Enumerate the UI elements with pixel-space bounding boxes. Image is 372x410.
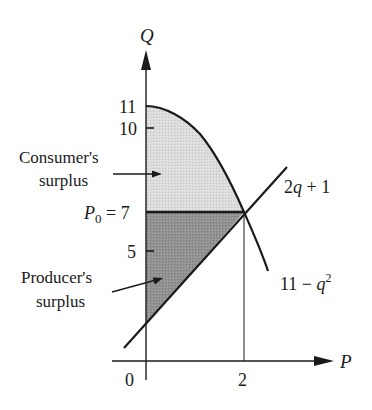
producer-surplus-label-line1: Producer's	[21, 268, 92, 287]
tick-label-5: 5	[127, 242, 136, 262]
supply-label-q: q	[293, 177, 302, 197]
tick-label-0: 0	[125, 370, 134, 390]
p-axis-label: P	[339, 351, 352, 372]
q-axis-arrowhead-icon	[141, 50, 151, 70]
supply-label-2: 2	[284, 177, 293, 197]
producer-surplus-label-line2: surplus	[36, 292, 85, 311]
equilibrium-value: = 7	[102, 203, 130, 223]
tick-label-2: 2	[238, 370, 247, 390]
tick-label-11: 11	[119, 97, 136, 117]
demand-label-q: q	[316, 274, 325, 294]
supply-curve-label: 2q + 1	[284, 177, 330, 197]
consumer-surplus-label-line2: surplus	[39, 171, 88, 190]
consumer-surplus-label-line1: Consumer's	[19, 148, 99, 167]
q-axis-label: Q	[140, 25, 154, 46]
equilibrium-symbol: P	[83, 203, 95, 223]
demand-label-exp: 2	[325, 271, 331, 285]
supply-label-rest: + 1	[302, 177, 330, 197]
p-axis-arrowhead-icon	[314, 356, 334, 366]
consumer-surplus-region	[146, 106, 244, 212]
equilibrium-label: P0 = 7	[83, 203, 130, 226]
surplus-diagram: Q P 11 10 5 P0 = 7 0 2 Consumer's surplu…	[0, 0, 372, 410]
demand-curve-label: 11 − q2	[280, 271, 331, 294]
tick-label-10: 10	[119, 119, 137, 139]
demand-label-11: 11 −	[280, 274, 316, 294]
